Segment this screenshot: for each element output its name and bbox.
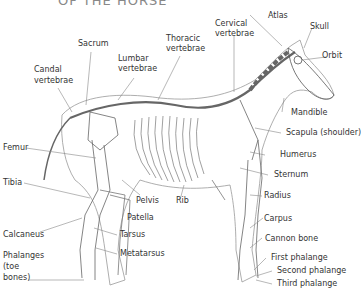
label-sternum: Sternum bbox=[274, 170, 308, 180]
label-thoracic-line2: vertebrae bbox=[166, 44, 205, 54]
label-tibia: Tibia bbox=[3, 178, 22, 188]
label-orbit: Orbit bbox=[322, 51, 342, 61]
label-phalanges-line3: bones) bbox=[3, 273, 30, 283]
label-cervical-line2: vertebrae bbox=[215, 29, 254, 39]
label-scapula: Scapula (shoulder) bbox=[286, 128, 361, 138]
label-mandible: Mandible bbox=[291, 108, 327, 118]
label-phalanges-line2: (toe bbox=[3, 262, 19, 272]
label-sacrum: Sacrum bbox=[78, 39, 109, 49]
label-first-phalange: First phalange bbox=[271, 253, 328, 263]
label-pelvis: Pelvis bbox=[136, 196, 159, 206]
label-metatarsus: Metatarsus bbox=[120, 249, 165, 259]
label-second-phalange: Second phalange bbox=[277, 266, 346, 276]
label-femur: Femur bbox=[3, 143, 28, 153]
label-cervical-line1: Cervical bbox=[215, 19, 247, 29]
label-tarsus: Tarsus bbox=[120, 230, 145, 240]
label-humerus: Humerus bbox=[280, 150, 316, 160]
label-patella: Patella bbox=[127, 213, 154, 223]
label-rib: Rib bbox=[176, 196, 189, 206]
label-calcaneus: Calcaneus bbox=[3, 230, 44, 240]
label-cannon-bone: Cannon bone bbox=[265, 234, 318, 244]
label-lumbar-line2: vertebrae bbox=[118, 64, 157, 74]
label-thoracic-line1: Thoracic bbox=[166, 34, 200, 44]
label-candal-line2: vertebrae bbox=[34, 76, 73, 86]
label-carpus: Carpus bbox=[264, 214, 292, 224]
label-phalanges-line1: Phalanges bbox=[3, 251, 44, 261]
label-atlas: Atlas bbox=[268, 11, 288, 21]
label-skull: Skull bbox=[310, 22, 329, 32]
label-candal-line1: Candal bbox=[34, 65, 62, 75]
label-lumbar-line1: Lumbar bbox=[118, 54, 148, 64]
label-third-phalange: Third phalange bbox=[277, 279, 337, 289]
label-radius: Radius bbox=[264, 191, 291, 201]
